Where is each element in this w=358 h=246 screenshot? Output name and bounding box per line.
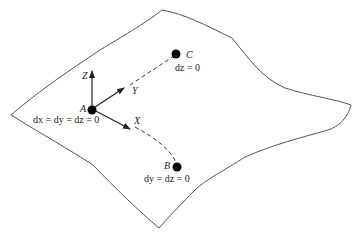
z-axis-label: Z <box>82 70 88 81</box>
point-b <box>173 163 182 172</box>
surface-diagram: Z Y X A dx = dy = dz = 0 C dz = 0 B dy =… <box>0 0 358 246</box>
y-axis-label: Y <box>132 85 139 96</box>
y-axis-arrow <box>92 88 124 109</box>
point-b-constraint: dy = dz = 0 <box>144 173 190 184</box>
x-axis-label: X <box>133 115 141 126</box>
point-a-label: A <box>79 103 87 114</box>
point-b-label: B <box>164 160 170 171</box>
point-a-constraint: dx = dy = dz = 0 <box>33 114 99 125</box>
point-c-label: C <box>186 49 193 60</box>
point-c-constraint: dz = 0 <box>175 62 200 73</box>
path-x-to-b <box>135 127 177 165</box>
point-c <box>172 50 181 59</box>
